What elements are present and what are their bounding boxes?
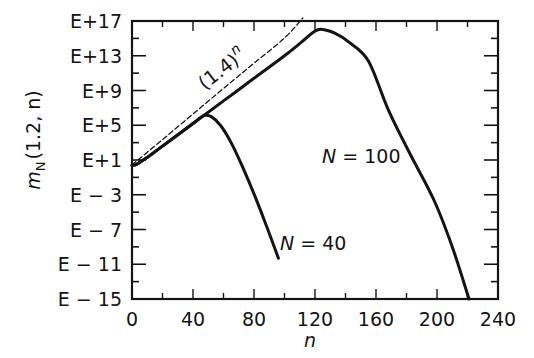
y-tick-label: E − 15	[58, 288, 122, 310]
power-law-annotation: (1.4)n	[191, 40, 249, 94]
x-tick-label: 240	[480, 308, 516, 330]
y-axis-title-args: (1.2, n)	[22, 90, 44, 159]
y-tick-label: E+5	[82, 114, 122, 136]
svg-text:mN(1.2, n): mN(1.2, n)	[22, 90, 48, 189]
n100-label: N = 100	[322, 145, 400, 167]
series-1-4-n	[132, 18, 303, 165]
series-n-100	[132, 29, 469, 299]
axis-ticks	[132, 21, 498, 299]
y-tick-label: E+17	[70, 10, 122, 32]
series-n-40	[132, 115, 278, 258]
y-tick-label: E+13	[70, 45, 122, 67]
x-tick-label: 0	[126, 308, 138, 330]
y-tick-label: E − 11	[58, 253, 122, 275]
y-axis-title: mN(1.2, n)	[22, 90, 48, 189]
y-tick-labels: E+17E+13E+9E+5E+1E − 3E − 7E − 11E − 15	[58, 10, 122, 310]
x-axis-title: n	[304, 329, 316, 351]
x-tick-label: 200	[419, 308, 455, 330]
svg-text:(1.4)n: (1.4)n	[191, 40, 249, 94]
x-tick-label: 160	[358, 308, 394, 330]
y-axis-title-sub: N	[33, 161, 48, 171]
x-tick-label: 80	[242, 308, 266, 330]
y-tick-label: E+9	[82, 80, 122, 102]
x-tick-label: 120	[297, 308, 333, 330]
x-tick-label: 40	[181, 308, 205, 330]
x-tick-labels: 04080120160200240	[126, 308, 516, 330]
chart-figure: E+17E+13E+9E+5E+1E − 3E − 7E − 11E − 15 …	[0, 0, 534, 358]
y-tick-label: E − 3	[70, 184, 122, 206]
plot-curves	[132, 18, 469, 299]
y-axis-title-main: m	[22, 171, 44, 190]
n40-label: N = 40	[280, 232, 346, 254]
plot-frame	[132, 21, 498, 299]
y-tick-label: E+1	[82, 149, 122, 171]
y-tick-label: E − 7	[70, 219, 122, 241]
plot-border	[132, 21, 498, 299]
